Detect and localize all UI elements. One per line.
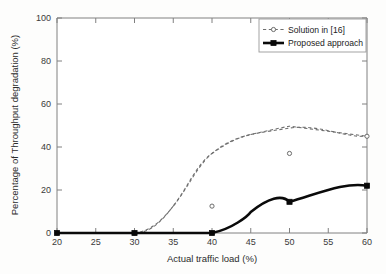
chart-legend: Solution in [16] Proposed approach	[259, 19, 366, 52]
x-tick-labels: 20 25 30 35 40 45 50 55 60	[52, 237, 372, 247]
data-point-marker	[132, 230, 137, 235]
x-tick-label: 45	[246, 237, 256, 247]
y-axis-title: Percentage of Throughput degradation (%)	[9, 35, 20, 215]
chart-figure: 20 25 30 35 40 45 50 55 60 0 20 40 60 80…	[0, 0, 386, 274]
y-tick-label: 80	[41, 56, 51, 66]
data-point-marker	[287, 151, 291, 155]
data-point-marker	[210, 204, 214, 208]
x-tick-label: 55	[323, 237, 333, 247]
x-axis-title: Actual traffic load (%)	[167, 253, 257, 264]
y-tick-label: 100	[36, 13, 51, 23]
x-tick-label: 40	[207, 237, 217, 247]
y-tick-label: 0	[46, 228, 51, 238]
y-tick-label: 40	[41, 142, 51, 152]
x-tick-label: 30	[129, 237, 139, 247]
y-tick-label: 20	[41, 185, 51, 195]
y-tick-label: 60	[41, 99, 51, 109]
data-point-marker	[209, 230, 214, 235]
line-chart: 20 25 30 35 40 45 50 55 60 0 20 40 60 80…	[0, 0, 386, 274]
x-tick-label: 50	[284, 237, 294, 247]
data-point-marker	[364, 183, 369, 188]
legend-marker-filled-square	[271, 40, 276, 45]
legend-label: Proposed approach	[288, 38, 363, 48]
data-point-marker	[54, 230, 59, 235]
x-tick-label: 60	[362, 237, 372, 247]
data-point-marker	[365, 134, 369, 138]
x-tick-label: 20	[52, 237, 62, 247]
x-tick-label: 25	[91, 237, 101, 247]
x-tick-label: 35	[168, 237, 178, 247]
legend-label: Solution in [16]	[288, 25, 345, 35]
data-point-marker	[287, 199, 292, 204]
legend-marker-open-circle	[271, 27, 275, 31]
